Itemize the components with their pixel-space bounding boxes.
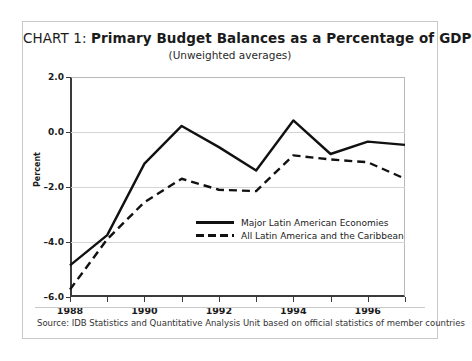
y-tick-label: 2.0 [48, 72, 64, 82]
x-tick-mark [70, 297, 71, 302]
legend-item-major: Major Latin American Economies [196, 216, 404, 229]
series-line [70, 120, 405, 265]
y-tick-label: –2.0 [44, 182, 64, 192]
x-tick-mark [219, 297, 220, 302]
chart-title-prefix: CHART 1: [23, 30, 91, 46]
source-divider [35, 307, 425, 308]
legend-item-all: All Latin America and the Caribbean [196, 229, 404, 242]
chart-title-block: CHART 1: Primary Budget Balances as a Pe… [23, 30, 437, 61]
legend-swatch-dashed [196, 230, 234, 241]
x-tick-mark-minor [256, 297, 257, 302]
chart-title-main: Primary Budget Balances as a Percentage … [91, 30, 472, 46]
legend-label-major: Major Latin American Economies [241, 218, 389, 228]
page-title: CHART 1: Primary Budget Balances as a Pe… [23, 30, 437, 46]
x-tick-mark [144, 297, 145, 302]
x-tick-mark [368, 297, 369, 302]
x-tick-mark-minor [405, 297, 406, 302]
y-tick-label: –4.0 [44, 237, 64, 247]
x-tick-mark-minor [182, 297, 183, 302]
chart-legend: Major Latin American Economies All Latin… [196, 216, 404, 242]
series-lines [70, 77, 405, 297]
chart-subtitle: (Unweighted averages) [23, 49, 437, 61]
legend-swatch-solid [196, 217, 234, 228]
source-note: Source: IDB Statistics and Quantitative … [37, 318, 465, 328]
x-tick-mark [293, 297, 294, 302]
plot-area: 2.00.0–2.0–4.0–6.0 19881990199219941996 [70, 77, 405, 297]
y-axis-label: Percent [33, 152, 42, 187]
y-tick-label: 0.0 [48, 127, 64, 137]
chart-figure: CHART 1: Primary Budget Balances as a Pe… [22, 21, 438, 339]
y-tick-label: –6.0 [44, 292, 64, 302]
legend-label-all: All Latin America and the Caribbean [241, 231, 404, 241]
x-tick-mark-minor [107, 297, 108, 302]
x-tick-mark-minor [331, 297, 332, 302]
